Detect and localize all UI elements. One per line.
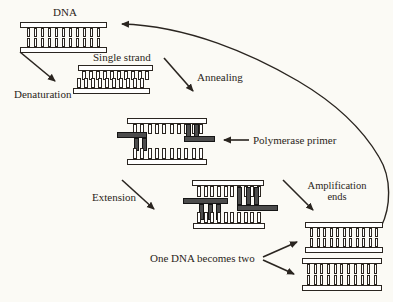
tooth <box>148 124 152 134</box>
tooth <box>199 124 203 134</box>
tooth <box>320 275 323 285</box>
product-arrow-lower <box>263 260 294 274</box>
tooth <box>97 38 100 47</box>
strand-backbone <box>73 88 150 94</box>
tooth <box>334 264 337 274</box>
tooth <box>224 186 228 197</box>
dna-molecule <box>20 22 107 53</box>
template-bottom-teeth <box>133 148 203 159</box>
label-one-dna-becomes-two: One DNA becomes two <box>150 252 255 264</box>
base-pair-teeth <box>307 275 377 285</box>
tooth <box>330 228 333 237</box>
tooth <box>317 228 320 237</box>
base-pair-teeth <box>310 238 378 247</box>
tooth <box>317 238 320 247</box>
tooth <box>76 28 79 37</box>
tooth <box>133 78 137 88</box>
tooth <box>55 38 58 47</box>
tooth <box>362 228 365 237</box>
tooth <box>83 38 86 47</box>
tooth <box>126 78 130 88</box>
tooth <box>374 275 377 285</box>
tooth <box>354 275 357 285</box>
base-pair-teeth <box>310 228 378 237</box>
tooth <box>62 38 65 47</box>
tooth <box>369 238 372 247</box>
product-dna-1 <box>305 222 383 253</box>
annealing-complex <box>117 118 215 165</box>
tooth <box>69 38 72 47</box>
tooth <box>77 78 81 88</box>
tooth <box>140 148 144 159</box>
tooth <box>327 264 330 274</box>
tooth <box>55 28 58 37</box>
label-amplification-line2: ends <box>327 191 346 202</box>
tooth <box>217 212 221 223</box>
tooth <box>105 78 109 88</box>
tooth <box>349 238 352 247</box>
tooth <box>197 212 201 223</box>
tooth <box>246 187 251 205</box>
tooth <box>244 212 248 223</box>
single-strand-bottom <box>73 78 150 94</box>
tooth <box>119 78 123 88</box>
tooth <box>334 275 337 285</box>
tooth <box>90 28 93 37</box>
tooth <box>237 187 242 205</box>
label-dna: DNA <box>53 6 77 18</box>
base-pair-teeth <box>307 264 377 274</box>
tooth <box>90 38 93 47</box>
label-denaturation: Denaturation <box>14 88 71 100</box>
extension-complex <box>183 180 278 229</box>
tooth <box>162 124 166 134</box>
tooth <box>230 186 234 197</box>
label-annealing: Annealing <box>197 71 243 83</box>
template-bottom-backbone <box>193 223 265 229</box>
tooth <box>84 78 88 88</box>
tooth <box>375 228 378 237</box>
label-amplification-ends: Amplification ends <box>300 180 374 202</box>
tooth <box>184 148 188 159</box>
tooth <box>210 212 214 223</box>
tooth <box>257 212 261 223</box>
tooth <box>91 78 95 88</box>
tooth <box>217 186 221 197</box>
tooth <box>323 228 326 237</box>
tooth <box>361 264 364 274</box>
product-dna-2 <box>302 258 382 291</box>
base-teeth <box>77 78 144 88</box>
tooth <box>367 275 370 285</box>
label-amplification-line1: Amplification <box>308 180 367 191</box>
base-pair-teeth <box>27 38 100 47</box>
tooth <box>310 238 313 247</box>
tooth <box>314 275 317 285</box>
tooth <box>155 148 159 159</box>
tooth <box>343 228 346 237</box>
tooth <box>112 78 116 88</box>
tooth <box>347 275 350 285</box>
tooth <box>162 148 166 159</box>
tooth <box>97 28 100 37</box>
tooth <box>177 148 181 159</box>
tooth <box>27 38 30 47</box>
dna-strand-backbone <box>305 247 383 253</box>
primer-right-backbone <box>184 136 215 142</box>
tooth <box>41 28 44 37</box>
tooth <box>204 212 208 223</box>
tooth <box>34 28 37 37</box>
tooth <box>62 28 65 37</box>
tooth <box>369 228 372 237</box>
tooth <box>230 212 234 223</box>
tooth <box>327 275 330 285</box>
tooth <box>177 124 181 134</box>
tooth <box>155 124 159 134</box>
tooth <box>336 238 339 247</box>
tooth <box>375 238 378 247</box>
label-single-strand: Single strand <box>93 51 151 63</box>
tooth <box>361 275 364 285</box>
tooth <box>314 264 317 274</box>
tooth <box>199 148 203 159</box>
annealing-arrow <box>164 58 193 91</box>
tooth <box>76 38 79 47</box>
template-bottom-teeth <box>197 212 261 223</box>
